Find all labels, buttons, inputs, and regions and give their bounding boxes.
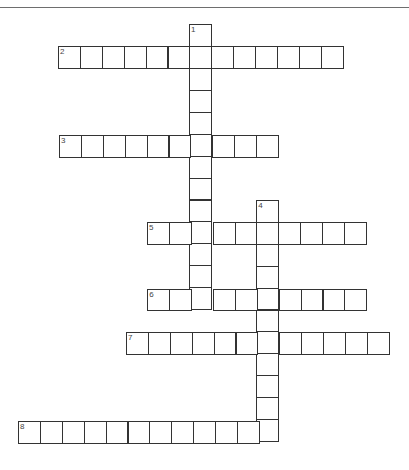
crossword-cell[interactable] — [149, 421, 172, 444]
crossword-cell[interactable] — [322, 222, 345, 245]
crossword-cell[interactable] — [211, 46, 234, 69]
crossword-cell[interactable]: 5 — [147, 222, 170, 245]
crossword-cell[interactable] — [212, 135, 235, 158]
crossword-cell[interactable] — [235, 289, 258, 312]
crossword-cell[interactable] — [278, 222, 301, 245]
crossword-cell[interactable] — [169, 135, 192, 158]
crossword-cell[interactable] — [81, 135, 104, 158]
crossword-cell[interactable] — [80, 46, 103, 69]
crossword-cell[interactable] — [193, 421, 216, 444]
crossword-cell[interactable] — [256, 397, 279, 420]
clue-number-1: 1 — [191, 25, 195, 34]
crossword-cell[interactable] — [189, 178, 212, 201]
crossword-cell[interactable] — [234, 135, 257, 158]
crossword-cell[interactable] — [233, 46, 256, 69]
crossword-cell[interactable] — [256, 353, 279, 376]
crossword-cell[interactable] — [171, 421, 194, 444]
crossword-cell[interactable]: 7 — [126, 332, 149, 355]
crossword-cell[interactable] — [147, 135, 170, 158]
crossword-cell[interactable] — [124, 46, 147, 69]
crossword-cell[interactable] — [237, 421, 260, 444]
crossword-cell[interactable] — [277, 46, 300, 69]
crossword-cell[interactable] — [189, 200, 212, 223]
crossword-cell[interactable] — [189, 90, 212, 113]
crossword-cell[interactable] — [169, 222, 192, 245]
crossword-cell[interactable] — [256, 266, 279, 289]
crossword-cell[interactable] — [255, 46, 278, 69]
crossword-cell[interactable] — [256, 222, 279, 245]
crossword-cell[interactable] — [344, 222, 367, 245]
crossword-cell[interactable] — [301, 332, 324, 355]
crossword-cell[interactable] — [256, 310, 279, 333]
crossword-cell[interactable] — [301, 289, 324, 312]
clue-number-6: 6 — [149, 290, 153, 299]
crossword-cell[interactable] — [168, 46, 191, 69]
crossword-cell[interactable] — [40, 421, 63, 444]
crossword-cell[interactable] — [279, 332, 302, 355]
crossword-grid: 12345678 — [0, 0, 409, 470]
crossword-cell[interactable] — [256, 135, 279, 158]
clue-number-2: 2 — [60, 47, 64, 56]
crossword-cell[interactable] — [235, 222, 258, 245]
crossword-cell[interactable] — [215, 421, 238, 444]
crossword-cell[interactable] — [128, 421, 151, 444]
crossword-cell[interactable] — [256, 375, 279, 398]
crossword-cell[interactable] — [189, 265, 212, 288]
crossword-cell[interactable] — [323, 289, 346, 312]
crossword-cell[interactable] — [189, 156, 212, 179]
crossword-cell[interactable]: 3 — [59, 135, 82, 158]
clue-number-7: 7 — [128, 333, 132, 342]
crossword-cell[interactable]: 8 — [18, 421, 41, 444]
crossword-cell[interactable] — [345, 332, 368, 355]
crossword-cell[interactable] — [300, 222, 323, 245]
crossword-cell[interactable] — [146, 46, 169, 69]
crossword-cell[interactable] — [213, 222, 236, 245]
crossword-cell[interactable] — [189, 287, 212, 310]
crossword-cell[interactable] — [148, 332, 171, 355]
crossword-cell[interactable] — [169, 289, 192, 312]
crossword-cell[interactable] — [192, 332, 215, 355]
crossword-cell[interactable] — [279, 289, 302, 312]
crossword-cell[interactable] — [170, 332, 193, 355]
clue-number-4: 4 — [258, 201, 262, 210]
crossword-cell[interactable]: 1 — [189, 24, 212, 47]
crossword-cell[interactable] — [189, 243, 212, 266]
crossword-cell[interactable] — [256, 288, 279, 311]
crossword-cell[interactable] — [84, 421, 107, 444]
crossword-cell[interactable] — [367, 332, 390, 355]
clue-number-3: 3 — [61, 136, 65, 145]
crossword-cell[interactable] — [189, 112, 212, 135]
clue-number-8: 8 — [20, 422, 24, 431]
clue-number-5: 5 — [149, 223, 153, 232]
crossword-cell[interactable] — [103, 135, 126, 158]
crossword-cell[interactable] — [323, 332, 346, 355]
crossword-cell[interactable] — [214, 332, 237, 355]
crossword-cell[interactable]: 4 — [256, 200, 279, 223]
crossword-cell[interactable] — [189, 68, 212, 91]
crossword-cell[interactable] — [321, 46, 344, 69]
crossword-cell[interactable] — [106, 421, 129, 444]
crossword-cell[interactable] — [189, 221, 212, 244]
crossword-cell[interactable] — [125, 135, 148, 158]
crossword-cell[interactable] — [256, 331, 279, 354]
crossword-cell[interactable] — [102, 46, 125, 69]
crossword-cell[interactable] — [256, 244, 279, 267]
crossword-cell[interactable] — [299, 46, 322, 69]
crossword-cell[interactable] — [344, 289, 367, 312]
crossword-cell[interactable] — [213, 289, 236, 312]
crossword-cell[interactable] — [189, 134, 212, 157]
crossword-cell[interactable] — [62, 421, 85, 444]
crossword-cell[interactable] — [236, 332, 259, 355]
crossword-cell[interactable]: 6 — [147, 289, 170, 312]
crossword-cell[interactable]: 2 — [58, 46, 81, 69]
crossword-cell[interactable] — [189, 46, 212, 69]
